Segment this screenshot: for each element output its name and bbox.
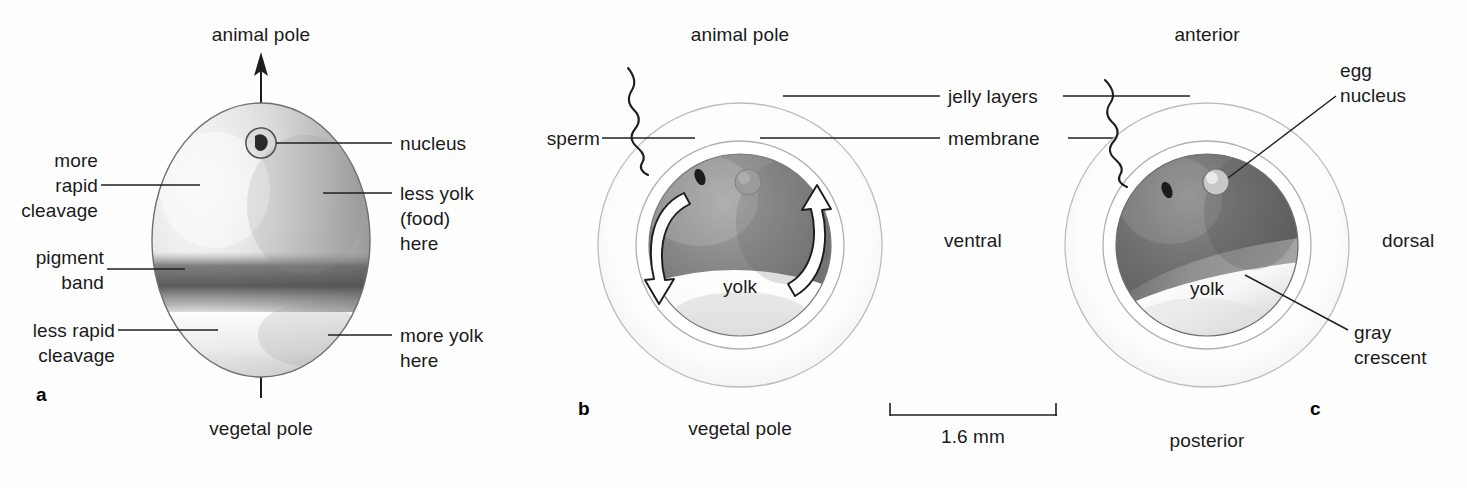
panel-c-posterior-label: posterior xyxy=(1127,428,1287,453)
label-yolk-b: yolk xyxy=(695,274,785,299)
shared-leaders-to-c xyxy=(1063,96,1196,138)
panel-a-egg xyxy=(101,52,392,398)
nucleus-bump-b xyxy=(735,169,761,195)
panel-b-animal-pole-label: animal pole xyxy=(660,22,820,47)
panel-letter-c: c xyxy=(1310,398,1321,420)
panel-c-anterior-label: anterior xyxy=(1127,22,1287,47)
scale-bar-label: 1.6 mm xyxy=(903,424,1043,449)
panel-a-animal-pole-label: animal pole xyxy=(181,22,341,47)
label-yolk-c: yolk xyxy=(1162,276,1252,301)
panel-letter-a: a xyxy=(36,384,47,406)
panel-b-egg xyxy=(598,68,940,387)
panel-b-leaders xyxy=(602,96,940,138)
label-nucleus: nucleus xyxy=(400,131,466,156)
scale-bar xyxy=(890,403,1057,416)
label-pigment-band: pigment band xyxy=(0,245,104,295)
sperm-c xyxy=(1105,80,1175,200)
nucleus-marker xyxy=(246,128,276,158)
panel-a-leaders xyxy=(101,143,392,335)
diagram-artwork xyxy=(0,0,1467,488)
panel-a-vegetal-pole-label: vegetal pole xyxy=(181,416,341,441)
egg-nucleus-c xyxy=(1203,169,1229,195)
panel-c-egg xyxy=(1065,80,1349,387)
label-less-yolk-here: less yolk (food) here xyxy=(400,181,474,256)
label-gray-crescent: gray crescent xyxy=(1354,320,1427,370)
label-more-rapid-cleavage: more rapid cleavage xyxy=(0,148,98,223)
panel-c-dorsal-label: dorsal xyxy=(1382,228,1434,253)
label-jelly-layers: jelly layers xyxy=(948,84,1038,109)
label-more-yolk-here: more yolk here xyxy=(400,323,483,373)
rotation-arrow-right-b xyxy=(788,185,831,296)
panel-letter-b: b xyxy=(578,398,590,420)
panel-b-vegetal-pole-label: vegetal pole xyxy=(660,416,820,441)
label-egg-nucleus: egg nucleus xyxy=(1340,58,1406,108)
figure-canvas: animal pole vegetal pole nucleus more ra… xyxy=(0,0,1467,488)
label-less-rapid-cleavage: less rapid cleavage xyxy=(0,318,115,368)
sperm-b xyxy=(628,68,708,187)
panel-c-ventral-label: ventral xyxy=(944,228,1002,253)
label-membrane: membrane xyxy=(948,126,1040,151)
label-sperm: sperm xyxy=(508,126,600,151)
rotation-arrow-left-b xyxy=(645,193,690,304)
animal-vegetal-axis-arrow xyxy=(254,52,268,398)
